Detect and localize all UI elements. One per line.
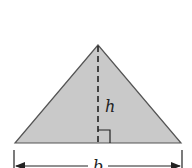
- triangle-area-diagram: h b: [0, 0, 192, 168]
- arrow-right-icon: [171, 162, 181, 168]
- arrow-left-icon: [15, 162, 25, 168]
- height-label: h: [105, 97, 115, 116]
- base-label: b: [93, 157, 103, 168]
